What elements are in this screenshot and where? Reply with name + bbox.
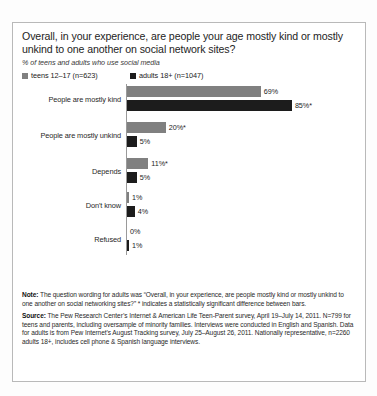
bar-adults — [127, 172, 137, 183]
row-bars: 20%* 5% — [127, 120, 356, 150]
bar-group-adults: 4% — [127, 206, 148, 217]
category-label: Refused — [22, 235, 121, 244]
bar-value-adults: 5% — [140, 173, 150, 182]
source-paragraph: Source: The Pew Research Center’s Intern… — [22, 312, 356, 346]
legend-label-adults: adults 18+ (n=1047) — [139, 71, 203, 80]
bar-teens — [127, 122, 166, 133]
bar-value-teens: 0% — [130, 227, 140, 236]
legend-label-teens: teens 12–17 (n=623) — [31, 71, 98, 80]
page-background: Overall, in your experience, are people … — [0, 0, 377, 396]
category-label: People are mostly kind — [22, 95, 121, 104]
bar-group-teens: 20%* — [127, 122, 186, 133]
bar-group-adults: 5% — [127, 172, 150, 183]
source-text: The Pew Research Center’s Internet & Ame… — [22, 312, 353, 345]
bar-adults — [127, 136, 137, 147]
chart-row: Don't know 1% 4% — [22, 190, 356, 220]
legend-item-adults: adults 18+ (n=1047) — [130, 71, 203, 80]
bar-adults — [127, 100, 292, 111]
chart-row: Refused 0% 1% — [22, 224, 356, 254]
bar-teens — [127, 86, 261, 97]
bar-value-adults: 1% — [132, 241, 142, 250]
category-label: Don't know — [22, 201, 121, 210]
footnotes: Note: The question wording for adults wa… — [22, 291, 356, 351]
legend-swatch-adults — [130, 73, 136, 79]
note-label: Note: — [22, 291, 38, 298]
bar-value-adults: 85%* — [295, 101, 312, 110]
legend-item-teens: teens 12–17 (n=623) — [22, 71, 130, 80]
bar-group-teens: 1% — [127, 192, 142, 203]
chart-row: People are mostly kind 69% 85%* — [22, 84, 356, 114]
source-label: Source: — [22, 312, 46, 319]
bar-teens — [127, 158, 148, 169]
bar-adults — [127, 240, 129, 251]
bar-group-adults: 85%* — [127, 100, 312, 111]
chart-subtitle: % of teens and adults who use social med… — [22, 58, 356, 67]
bar-value-adults: 5% — [140, 137, 150, 146]
bar-value-adults: 4% — [138, 207, 148, 216]
row-bars: 1% 4% — [127, 190, 356, 220]
bar-value-teens: 11%* — [151, 159, 167, 168]
chart-title: Overall, in your experience, are people … — [22, 30, 356, 56]
chart-legend: teens 12–17 (n=623) adults 18+ (n=1047) — [22, 71, 356, 80]
category-label: People are mostly unkind — [22, 131, 121, 140]
legend-swatch-teens — [22, 73, 28, 79]
category-label: Depends — [22, 167, 121, 176]
bar-group-adults: 1% — [127, 240, 142, 251]
row-bars: 11%* 5% — [127, 156, 356, 186]
chart-row: People are mostly unkind 20%* 5% — [22, 120, 356, 150]
bar-value-teens: 69% — [264, 87, 278, 96]
bar-adults — [127, 206, 135, 217]
bar-value-teens: 1% — [132, 193, 142, 202]
bar-group-adults: 5% — [127, 136, 150, 147]
note-text: The question wording for adults was “Ove… — [22, 291, 344, 307]
row-bars: 69% 85%* — [127, 84, 356, 114]
bar-group-teens: 0% — [127, 226, 140, 237]
row-bars: 0% 1% — [127, 224, 356, 254]
bar-chart-plot: People are mostly kind 69% 85%* People — [22, 84, 356, 257]
note-paragraph: Note: The question wording for adults wa… — [22, 291, 356, 308]
chart-row: Depends 11%* 5% — [22, 156, 356, 186]
bar-value-teens: 20%* — [169, 123, 186, 132]
chart-card: Overall, in your experience, are people … — [12, 22, 366, 382]
bar-group-teens: 11%* — [127, 158, 168, 169]
bar-teens — [127, 192, 129, 203]
bar-group-teens: 69% — [127, 86, 278, 97]
